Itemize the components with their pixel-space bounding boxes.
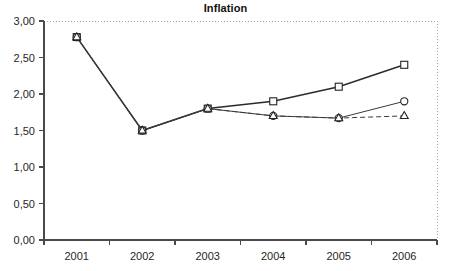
data-point-square bbox=[335, 83, 342, 90]
x-axis-labels: 200120022003200420052006 bbox=[65, 250, 417, 262]
chart-plot-area: 0,000,501,001,502,002,503,00 20012002200… bbox=[0, 0, 451, 271]
y-axis-ticks bbox=[39, 21, 44, 240]
series-line-circle bbox=[77, 37, 405, 130]
series-markers-group bbox=[73, 33, 408, 134]
y-tick-label: 0,50 bbox=[14, 198, 35, 210]
y-tick-label: 2,50 bbox=[14, 52, 35, 64]
series-lines-group bbox=[77, 37, 405, 130]
y-axis-labels: 0,000,501,001,502,002,503,00 bbox=[14, 15, 35, 246]
data-point-triangle bbox=[400, 112, 408, 119]
y-tick-label: 2,00 bbox=[14, 88, 35, 100]
x-tick-label: 2001 bbox=[65, 250, 89, 262]
x-tick-label: 2005 bbox=[327, 250, 351, 262]
plot-frame bbox=[44, 21, 437, 240]
data-point-square bbox=[401, 61, 408, 68]
y-tick-label: 1,50 bbox=[14, 125, 35, 137]
series-line-triangle bbox=[77, 37, 405, 130]
series-line-square bbox=[77, 37, 405, 130]
inflation-chart: Inflation 0,000,501,001,502,002,503,00 2… bbox=[0, 0, 451, 271]
y-tick-label: 0,00 bbox=[14, 234, 35, 246]
data-point-circle bbox=[401, 98, 408, 105]
x-axis-ticks bbox=[44, 240, 437, 245]
data-point-square bbox=[270, 98, 277, 105]
x-tick-label: 2002 bbox=[130, 250, 154, 262]
y-tick-label: 3,00 bbox=[14, 15, 35, 27]
y-tick-label: 1,00 bbox=[14, 161, 35, 173]
x-tick-label: 2006 bbox=[392, 250, 416, 262]
x-tick-label: 2003 bbox=[196, 250, 220, 262]
x-tick-label: 2004 bbox=[261, 250, 285, 262]
